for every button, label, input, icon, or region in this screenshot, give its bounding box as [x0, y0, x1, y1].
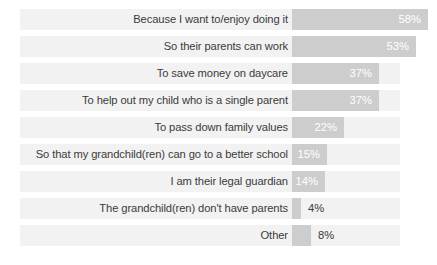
bar-value-label: 22%	[315, 117, 337, 138]
bar-fill: 58%	[292, 9, 428, 30]
bar-category-label: To pass down family values	[18, 117, 288, 138]
bar-category-label: To help out my child who is a single par…	[18, 90, 288, 111]
bar-fill: 4%	[292, 198, 301, 219]
bar-row: To pass down family values22%	[0, 117, 437, 138]
bar-value-label: 4%	[308, 198, 324, 219]
bar-value-label: 37%	[350, 90, 372, 111]
bar-row: Because I want to/enjoy doing it58%	[0, 9, 437, 30]
bar-category-label: I am their legal guardian	[18, 171, 288, 192]
bar-fill: 15%	[292, 144, 327, 165]
bar-category-label: Other	[18, 225, 288, 246]
bar-row: I am their legal guardian14%	[0, 171, 437, 192]
bar-value-label: 53%	[387, 36, 409, 57]
bar-fill: 8%	[292, 225, 311, 246]
bar-value-label: 14%	[296, 171, 318, 192]
bar-row: So that my grandchild(ren) can go to a b…	[0, 144, 437, 165]
bar-value-label: 37%	[350, 63, 372, 84]
bar-row: Other8%	[0, 225, 437, 246]
bar-category-label: The grandchild(ren) don't have parents	[18, 198, 288, 219]
bar-fill: 22%	[292, 117, 344, 138]
bar-fill: 53%	[292, 36, 416, 57]
bar-row: The grandchild(ren) don't have parents4%	[0, 198, 437, 219]
bar-fill: 37%	[292, 63, 379, 84]
bar-category-label: To save money on daycare	[18, 63, 288, 84]
bar-row: To save money on daycare37%	[0, 63, 437, 84]
bar-value-label: 58%	[399, 9, 421, 30]
bar-value-label: 15%	[298, 144, 320, 165]
bar-fill: 37%	[292, 90, 379, 111]
bar-row: To help out my child who is a single par…	[0, 90, 437, 111]
bar-category-label: So that my grandchild(ren) can go to a b…	[18, 144, 288, 165]
bar-fill: 14%	[292, 171, 325, 192]
bar-category-label: So their parents can work	[18, 36, 288, 57]
bar-category-label: Because I want to/enjoy doing it	[18, 9, 288, 30]
horizontal-bar-chart: Because I want to/enjoy doing it58%So th…	[0, 0, 437, 265]
bar-value-label: 8%	[318, 225, 334, 246]
bar-row: So their parents can work53%	[0, 36, 437, 57]
